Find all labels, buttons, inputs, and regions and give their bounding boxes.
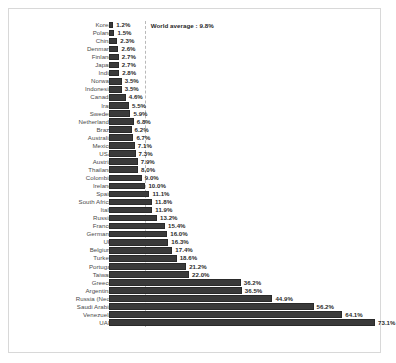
value-label: 2.7%	[122, 54, 136, 60]
category-label: South Africa	[79, 199, 112, 205]
bar-row: Norway3.5%	[9, 77, 380, 85]
bar-row: Sweden5.9%	[9, 110, 380, 118]
value-label: 3.5%	[125, 86, 139, 92]
bar-row: Taiwan22.0%	[9, 271, 380, 279]
bar	[109, 134, 133, 141]
bar	[109, 30, 114, 37]
bar-row: UK16.3%	[9, 238, 380, 246]
value-label: 11.9%	[155, 207, 172, 213]
value-label: 1.5%	[117, 30, 131, 36]
category-label: Russia (Neo)	[76, 296, 112, 302]
bar-row: Korea1.2%	[9, 21, 380, 29]
bar	[109, 303, 314, 310]
value-label: 18.6%	[180, 255, 198, 261]
bar	[109, 38, 117, 45]
value-label: 16.0%	[170, 231, 188, 237]
bar	[109, 239, 168, 246]
bar-row: China2.3%	[9, 37, 380, 45]
value-label: 56.2%	[317, 304, 335, 310]
bar-row: Russia13.2%	[9, 214, 380, 222]
bar	[109, 255, 177, 262]
value-label: 7.1%	[138, 143, 152, 149]
bar-row: Saudi Arabia56.2%	[9, 303, 380, 311]
bar-row: Greece36.2%	[9, 279, 380, 287]
bar	[109, 126, 132, 133]
bar	[109, 150, 136, 157]
bar	[109, 207, 152, 214]
value-label: 5.5%	[132, 102, 146, 108]
value-label: 1.2%	[116, 22, 130, 28]
bar	[109, 22, 113, 29]
bar-row: Spain11.1%	[9, 190, 380, 198]
bar-row: Turkey18.6%	[9, 254, 380, 262]
bar	[109, 142, 135, 149]
category-label: Venezuela	[83, 312, 112, 318]
bar-row: India2.8%	[9, 69, 380, 77]
bar-row: Iran5.5%	[9, 102, 380, 110]
bar-row: Portugal21.2%	[9, 263, 380, 271]
value-label: 73.1%	[378, 320, 396, 326]
bar	[109, 223, 165, 230]
bar	[109, 319, 375, 326]
value-label: 11.1%	[152, 191, 169, 197]
value-label: 36.2%	[244, 280, 262, 286]
bar-row: Ireland10.0%	[9, 182, 380, 190]
bar	[109, 191, 149, 198]
bar	[109, 263, 186, 270]
bar	[109, 94, 126, 101]
value-label: 22.0%	[192, 272, 210, 278]
bar	[109, 46, 118, 53]
bar-row: Mexico7.1%	[9, 142, 380, 150]
value-label: 7.9%	[141, 159, 155, 165]
bar	[109, 175, 142, 182]
bar	[109, 287, 242, 294]
category-label: Saudi Arabia	[77, 304, 112, 310]
bar-row: France15.4%	[9, 222, 380, 230]
value-label: 5.9%	[133, 111, 147, 117]
bar-row: Poland1.5%	[9, 29, 380, 37]
value-label: 17.4%	[175, 247, 193, 253]
bar	[109, 279, 241, 286]
bar-row: Australia6.7%	[9, 134, 380, 142]
value-label: 36.5%	[245, 288, 263, 294]
bar	[109, 158, 138, 165]
bar-row: Austria7.9%	[9, 158, 380, 166]
value-label: 2.6%	[121, 46, 135, 52]
bar-row: South Africa11.8%	[9, 198, 380, 206]
value-label: 15.4%	[168, 223, 186, 229]
value-label: 8.0%	[141, 167, 155, 173]
value-label: 21.2%	[189, 263, 207, 269]
value-label: 11.8%	[155, 199, 172, 205]
bar	[109, 311, 342, 318]
value-label: 6.7%	[136, 135, 150, 141]
value-label: 10.0%	[148, 183, 166, 189]
bar-row: Germany16.0%	[9, 230, 380, 238]
bar	[109, 231, 167, 238]
bar	[109, 247, 172, 254]
bar	[109, 118, 134, 125]
bar-row: Finland2.7%	[9, 53, 380, 61]
bar	[109, 62, 119, 69]
value-label: 3.5%	[125, 78, 139, 84]
bar	[109, 70, 119, 77]
bar-row: Argentina36.5%	[9, 287, 380, 295]
bar-row: Russia (Neo)44.9%	[9, 295, 380, 303]
bar	[109, 86, 122, 93]
bar-row: Thailand8.0%	[9, 166, 380, 174]
value-label: 44.9%	[275, 296, 293, 302]
bar	[109, 183, 145, 190]
bar	[109, 166, 138, 173]
value-label: 6.8%	[137, 119, 151, 125]
bar	[109, 199, 152, 206]
bar	[109, 215, 157, 222]
value-label: 2.7%	[122, 62, 136, 68]
bar-row: Netherlands6.8%	[9, 118, 380, 126]
bar	[109, 271, 189, 278]
bar	[109, 102, 129, 109]
bar-row: UAE73.1%	[9, 319, 380, 327]
value-label: 6.2%	[135, 127, 149, 133]
bar-row: Canada4.6%	[9, 93, 380, 101]
value-label: 2.3%	[120, 38, 134, 44]
bar	[109, 54, 119, 61]
bar	[109, 78, 122, 85]
